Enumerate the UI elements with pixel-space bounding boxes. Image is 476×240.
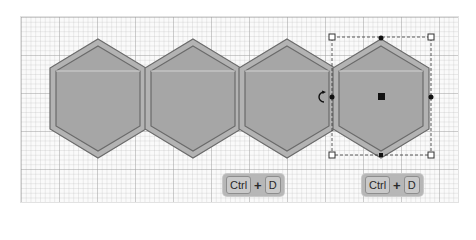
handle-top-left[interactable]: [329, 34, 335, 40]
shortcut-badge-2: Ctrl + D: [362, 174, 423, 196]
hexagon-2[interactable]: [145, 39, 241, 158]
plus-sign: +: [393, 178, 401, 193]
handle-left[interactable]: [330, 95, 335, 100]
key-ctrl: Ctrl: [226, 176, 251, 194]
handle-bottom-right[interactable]: [428, 152, 434, 158]
hexagon-3[interactable]: [239, 39, 335, 158]
handle-top-right[interactable]: [428, 34, 434, 40]
hexagon-1[interactable]: [50, 39, 146, 158]
handle-bottom-left[interactable]: [329, 152, 335, 158]
handle-center[interactable]: [378, 93, 385, 100]
handle-top[interactable]: [379, 36, 384, 41]
key-d: D: [265, 176, 281, 194]
key-d: D: [404, 176, 420, 194]
plus-sign: +: [254, 178, 262, 193]
key-ctrl: Ctrl: [365, 176, 390, 194]
handle-right[interactable]: [429, 95, 434, 100]
shortcut-badge-1: Ctrl + D: [223, 174, 284, 196]
handle-bottom[interactable]: [379, 153, 383, 157]
